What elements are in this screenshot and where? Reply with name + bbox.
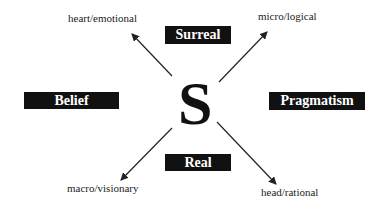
label-micro-logical: micro/logical	[258, 10, 317, 22]
label-heart-emotional: heart/emotional	[68, 12, 137, 24]
arrow-head-rational	[217, 122, 276, 184]
box-surreal: Surreal	[165, 26, 231, 44]
label-macro-visionary: macro/visionary	[67, 182, 138, 194]
label-head-rational: head/rational	[261, 186, 318, 198]
box-pragmatism: Pragmatism	[269, 92, 365, 110]
box-belief: Belief	[24, 92, 119, 109]
center-letter-s: S	[178, 72, 212, 134]
box-real: Real	[165, 154, 231, 171]
